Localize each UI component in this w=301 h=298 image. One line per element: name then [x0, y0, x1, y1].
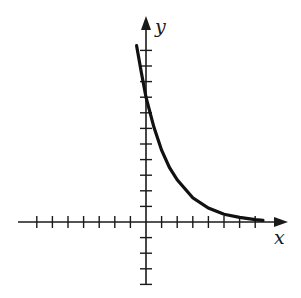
decay-curve — [137, 46, 263, 221]
y-axis-label: y — [154, 15, 166, 37]
x-axis-label: x — [274, 226, 285, 248]
plot-area: y x — [0, 0, 301, 298]
graph-figure: y x — [0, 0, 301, 298]
y-axis-arrow-icon — [141, 16, 151, 30]
axes — [18, 16, 288, 284]
